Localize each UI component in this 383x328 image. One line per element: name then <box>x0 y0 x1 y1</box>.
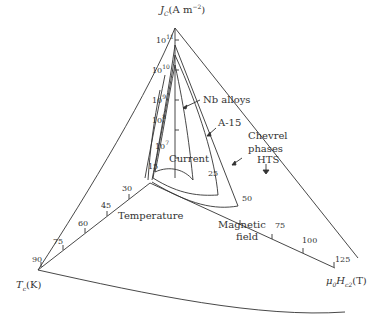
field-axis-title: μ0Hc2(T) <box>326 276 367 288</box>
temp-tick-45: 45 <box>101 202 111 210</box>
label-hts: HTS <box>257 155 279 165</box>
field-tick-125: 125 <box>335 256 350 264</box>
jc-tick-9: 109 <box>152 94 166 105</box>
label-a15: A-15 <box>218 118 241 128</box>
critical-surface-diagram: JC(A m−2) 1011 1010 109 108 107 15 30 45… <box>0 0 383 328</box>
temperature-axis-title: Tc(K) <box>16 280 41 292</box>
temp-tick-30: 30 <box>122 185 132 193</box>
jc-tick-8: 108 <box>152 114 166 125</box>
field-tick-50: 50 <box>242 195 252 203</box>
jc-axis-title: JC(A m−2) <box>160 4 205 17</box>
label-phases: phases <box>248 144 283 154</box>
temp-tick-75: 75 <box>53 238 63 246</box>
label-field: field <box>236 232 258 242</box>
label-nb-alloys: Nb alloys <box>203 95 251 105</box>
label-chevrel: Chevrel <box>248 131 288 141</box>
jc-tick-11: 1011 <box>156 34 174 45</box>
temp-tick-60: 60 <box>78 220 88 228</box>
temperature-axis <box>38 183 150 270</box>
jc-tick-7: 107 <box>155 140 169 151</box>
jc-tick-10: 1010 <box>152 64 170 75</box>
field-tick-25: 25 <box>208 170 218 178</box>
field-tick-100: 100 <box>302 237 317 245</box>
label-temperature: Temperature <box>118 211 184 221</box>
field-tick-75: 75 <box>275 222 285 230</box>
hts-base-curve <box>38 270 345 313</box>
label-current: Current <box>169 154 209 164</box>
label-magnetic: Magnetic <box>218 220 266 230</box>
temp-tick-15: 15 <box>148 163 158 171</box>
temp-tick-90: 90 <box>32 256 42 264</box>
